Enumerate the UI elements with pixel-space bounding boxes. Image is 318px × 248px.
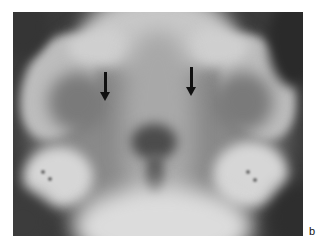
panel-label: b xyxy=(309,226,315,237)
annotation-arrow-right xyxy=(186,67,196,96)
arrow-down-icon xyxy=(190,67,193,88)
arrow-down-icon xyxy=(104,72,107,93)
radiograph-image xyxy=(13,12,303,236)
arrow-head xyxy=(100,92,110,101)
annotation-arrow-left xyxy=(100,72,110,101)
arrow-head xyxy=(186,87,196,96)
